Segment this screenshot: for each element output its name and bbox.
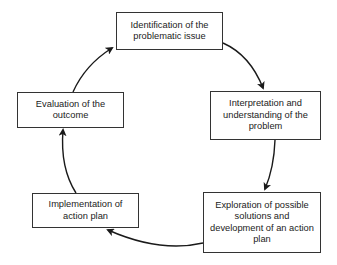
node-exploration: Exploration of possible solutions and de… xyxy=(203,192,321,253)
node-label: Interpretation and understanding of the … xyxy=(215,98,316,133)
node-label: Exploration of possible solutions and de… xyxy=(208,200,316,246)
node-evaluation: Evaluation of the outcome xyxy=(17,92,124,128)
arrow-exploration-to-implementation xyxy=(108,230,203,246)
node-interpretation: Interpretation and understanding of the … xyxy=(210,91,321,140)
arrow-identification-to-interpretation xyxy=(223,43,263,88)
node-label: Identification of the problematic issue xyxy=(121,20,218,43)
node-implementation: Implementation of action plan xyxy=(32,193,139,228)
node-label: Implementation of action plan xyxy=(37,199,134,222)
arrow-interpretation-to-exploration xyxy=(265,140,275,189)
arrow-implementation-to-evaluation xyxy=(63,130,76,193)
node-label: Evaluation of the outcome xyxy=(22,99,119,122)
node-identification: Identification of the problematic issue xyxy=(116,12,223,50)
arrow-evaluation-to-identification xyxy=(73,48,112,92)
